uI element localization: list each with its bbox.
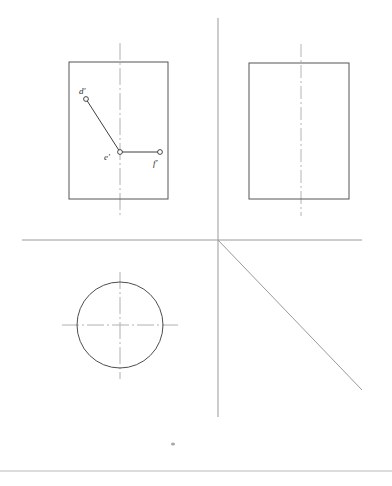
point-label-e-prime: e'	[104, 152, 111, 162]
point-label-d-prime: d'	[79, 86, 87, 96]
drawing-sheet: d' e' f'	[0, 0, 392, 486]
technical-drawing-canvas: d' e' f'	[0, 0, 392, 486]
miter-line-45deg-icon	[218, 240, 362, 390]
scan-speck-icon	[171, 443, 175, 446]
point-label-f-prime: f'	[153, 158, 159, 168]
front-view-rectangle	[69, 62, 168, 199]
point-marker-d-prime	[84, 97, 89, 102]
segment-d-prime-e-prime	[86, 99, 120, 152]
point-marker-e-prime	[118, 150, 123, 155]
side-view-rectangle	[249, 63, 349, 199]
point-marker-f-prime	[158, 150, 163, 155]
